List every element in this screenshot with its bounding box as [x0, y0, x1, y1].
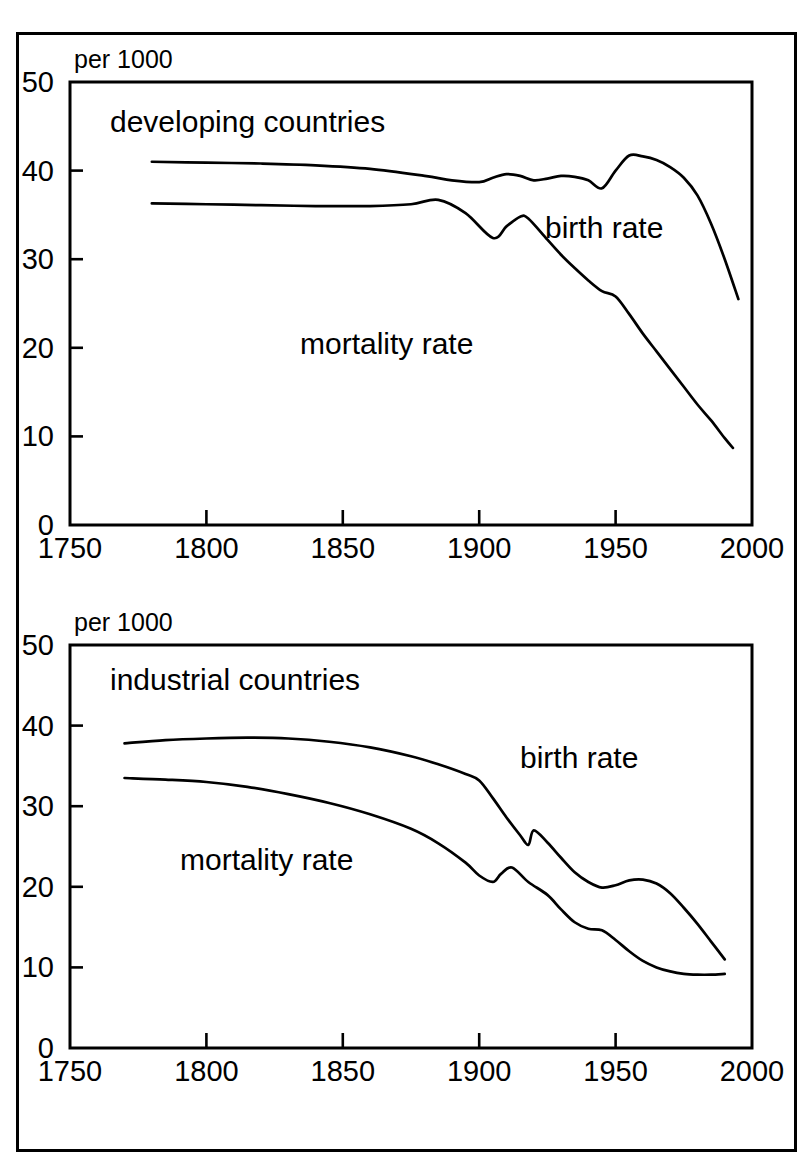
- y-tick-label-10: 10: [22, 951, 54, 983]
- y-tick-label-40: 40: [22, 710, 54, 742]
- y-tick-label-10: 10: [22, 420, 54, 452]
- y-tick-label-20: 20: [22, 332, 54, 364]
- figure-background: [0, 0, 810, 1173]
- y-tick-label-20: 20: [22, 871, 54, 903]
- x-tick-label-1850: 1850: [311, 532, 376, 564]
- y-tick-label-30: 30: [22, 790, 54, 822]
- x-tick-label-2000: 2000: [720, 1055, 785, 1087]
- x-tick-label-1750: 1750: [38, 1055, 103, 1087]
- x-tick-label-2000: 2000: [720, 532, 785, 564]
- x-tick-label-1750: 1750: [38, 532, 103, 564]
- mortality-rate-label-bottom: mortality rate: [180, 843, 353, 876]
- y-tick-label-50: 50: [22, 66, 54, 98]
- panel-title-bottom: industrial countries: [110, 663, 360, 696]
- y-tick-label-30: 30: [22, 243, 54, 275]
- x-tick-label-1900: 1900: [447, 532, 512, 564]
- panel-title-top: developing countries: [110, 105, 385, 138]
- x-tick-label-1950: 1950: [583, 1055, 648, 1087]
- mortality-rate-label-top: mortality rate: [300, 327, 473, 360]
- birth-rate-label-bottom: birth rate: [520, 741, 638, 774]
- y-tick-label-50: 50: [22, 629, 54, 661]
- birth-rate-label-top: birth rate: [545, 211, 663, 244]
- x-tick-label-1800: 1800: [174, 532, 239, 564]
- x-tick-label-1950: 1950: [583, 532, 648, 564]
- x-tick-label-1850: 1850: [311, 1055, 376, 1087]
- y-axis-unit-label-bottom: per 1000: [74, 608, 173, 636]
- y-tick-label-40: 40: [22, 155, 54, 187]
- x-tick-label-1800: 1800: [174, 1055, 239, 1087]
- y-axis-unit-label-top: per 1000: [74, 45, 173, 73]
- x-tick-label-1900: 1900: [447, 1055, 512, 1087]
- demographic-transition-figure: per 1000 01020304050 1750180018501900195…: [0, 0, 810, 1173]
- figure-root: per 1000 01020304050 1750180018501900195…: [0, 0, 810, 1173]
